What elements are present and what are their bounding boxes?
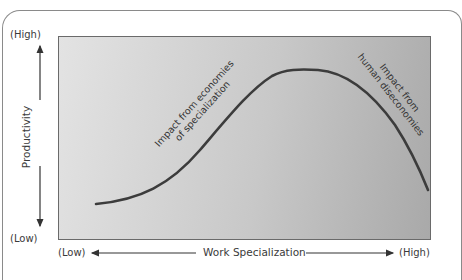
x-axis-high-label: (High) (399, 247, 430, 258)
x-axis-low-label: (Low) (58, 247, 86, 258)
x-axis-title: Work Specialization (203, 246, 306, 258)
y-axis-low-label: (Low) (10, 233, 38, 244)
y-axis-title: Productivity (20, 97, 32, 177)
productivity-curve (96, 70, 428, 204)
y-axis-high-label: (High) (10, 29, 41, 40)
